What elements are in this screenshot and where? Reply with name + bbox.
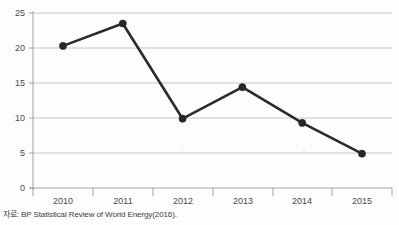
x-tick-label-2012: 2012 — [173, 196, 193, 205]
x-tick-label-2013: 2013 — [233, 196, 253, 205]
data-point-2014 — [299, 119, 306, 126]
data-point-2012 — [179, 115, 186, 122]
source-note: 자료: BP Statistical Review of World Energ… — [3, 208, 177, 219]
x-tick-label-2011: 2011 — [113, 196, 132, 205]
y-tick-label-20: 20 — [15, 43, 25, 53]
scan-artifact — [303, 150, 305, 152]
data-point-2011 — [119, 20, 126, 27]
y-tick-label-10: 10 — [15, 113, 25, 123]
x-tick-label-2010: 2010 — [53, 196, 73, 205]
y-tick-label-0: 0 — [20, 183, 25, 193]
x-tick-label-2014: 2014 — [292, 196, 312, 205]
x-tick-label-2015: 2015 — [352, 196, 372, 205]
scan-artifact — [182, 148, 184, 149]
y-tick-label-25: 25 — [15, 8, 25, 18]
series-line-path — [63, 24, 362, 154]
data-point-2015 — [358, 150, 365, 157]
gridlines — [33, 13, 392, 153]
y-tick-label-15: 15 — [15, 78, 25, 88]
data-point-2010 — [59, 42, 66, 49]
series-markers — [59, 20, 365, 157]
y-tick-marks — [29, 13, 33, 188]
y-tick-label-5: 5 — [20, 148, 25, 158]
line-chart-figure: 25 20 15 10 5 0 2010 2011 2012 2013 2014… — [0, 0, 399, 225]
y-axis-labels: 25 20 15 10 5 0 — [15, 8, 25, 193]
data-point-2013 — [239, 84, 246, 91]
chart-plot-area: 25 20 15 10 5 0 2010 2011 2012 2013 2014… — [0, 0, 399, 205]
x-tick-marks — [33, 188, 332, 196]
x-axis-labels: 2010 2011 2012 2013 2014 2015 — [53, 196, 372, 205]
